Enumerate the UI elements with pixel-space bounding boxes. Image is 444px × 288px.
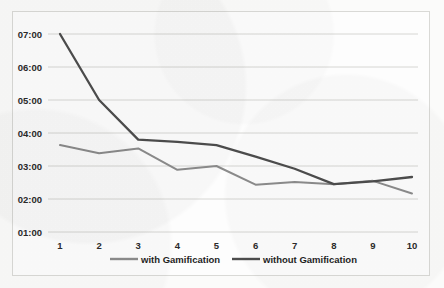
y-axis-tick-label: 05:00 [18, 95, 42, 106]
line-chart: 01:0002:0003:0004:0005:0006:0007:00 1234… [0, 0, 444, 288]
x-axis-tick-labels: 12345678910 [57, 240, 417, 251]
x-axis-tick-label: 9 [370, 240, 375, 251]
chart-legend: with Gamificationwithout Gamification [110, 254, 357, 265]
chart-svg: 01:0002:0003:0004:0005:0006:0007:00 1234… [0, 0, 444, 288]
x-axis-tick-label: 3 [136, 240, 141, 251]
series-line [60, 34, 412, 184]
y-axis-tick-label: 01:00 [18, 227, 42, 238]
y-axis-tick-label: 06:00 [18, 62, 42, 73]
gridlines [48, 34, 418, 232]
legend-label: with Gamification [140, 254, 220, 265]
x-axis-tick-label: 1 [57, 240, 63, 251]
y-axis-tick-label: 07:00 [18, 29, 42, 40]
x-axis-tick-label: 8 [331, 240, 336, 251]
x-axis-tick-label: 2 [96, 240, 101, 251]
y-axis-tick-label: 04:00 [18, 128, 42, 139]
series-lines [60, 34, 412, 194]
x-axis-tick-label: 4 [175, 240, 181, 251]
x-axis-tick-label: 10 [407, 240, 418, 251]
x-axis-tick-label: 6 [253, 240, 258, 251]
x-axis-tick-label: 5 [214, 240, 220, 251]
y-axis-tick-label: 02:00 [18, 194, 42, 205]
x-axis-tick-label: 7 [292, 240, 297, 251]
y-axis-tick-labels: 01:0002:0003:0004:0005:0006:0007:00 [18, 29, 42, 238]
y-axis-tick-label: 03:00 [18, 161, 42, 172]
series-line [60, 145, 412, 193]
legend-label: without Gamification [262, 254, 357, 265]
